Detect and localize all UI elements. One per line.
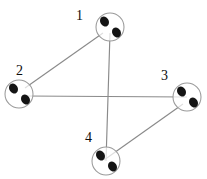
graph-node-2[interactable] (5, 80, 33, 108)
graph-node-3[interactable] (173, 83, 201, 111)
nodes-group (5, 13, 201, 175)
graph-edge-1-2 (25, 33, 103, 88)
node-label-3: 3 (161, 69, 168, 83)
node-circle-3 (173, 83, 201, 111)
graph-edge-2-3 (25, 96, 187, 97)
graph-node-4[interactable] (92, 147, 120, 175)
node-label-1: 1 (76, 9, 83, 23)
node-label-2: 2 (16, 64, 23, 78)
node-circle-4 (92, 147, 120, 175)
node-circle-1 (96, 13, 124, 41)
graph-node-1[interactable] (96, 13, 124, 41)
graph-diagram: 1234 (0, 0, 207, 179)
node-circle-2 (5, 80, 33, 108)
node-label-4: 4 (85, 131, 92, 145)
edges-group (25, 33, 187, 161)
diagram-canvas (0, 0, 207, 179)
